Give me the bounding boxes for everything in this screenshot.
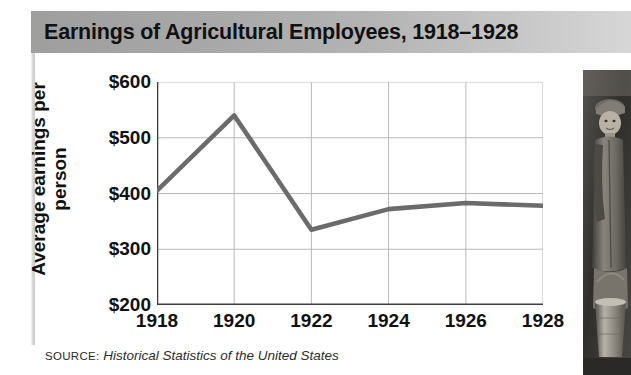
photograph-image xyxy=(583,70,631,375)
source-title: Historical Statistics of the United Stat… xyxy=(103,348,339,363)
page-title: Earnings of Agricultural Employees, 1918… xyxy=(44,20,518,45)
x-axis-tick-label: 1922 xyxy=(290,310,332,332)
x-axis-tick-label: 1918 xyxy=(136,310,178,332)
photograph xyxy=(583,70,631,375)
plot-area xyxy=(157,82,543,305)
line-chart-svg xyxy=(157,82,543,305)
source-label: SOURCE: xyxy=(45,350,100,362)
y-axis-tick-label: $500 xyxy=(85,127,151,149)
data-series-line xyxy=(157,115,543,229)
figure-container: Earnings of Agricultural Employees, 1918… xyxy=(0,0,631,375)
y-axis-tick-label: $600 xyxy=(85,71,151,93)
figure-title-bar: Earnings of Agricultural Employees, 1918… xyxy=(31,11,631,53)
y-axis-tick-labels: $200$300$400$500$600 xyxy=(85,56,151,336)
gridlines xyxy=(157,82,543,305)
x-axis-tick-labels: 191819201922192419261928 xyxy=(157,310,543,340)
x-axis-tick-label: 1926 xyxy=(445,310,487,332)
source-citation: SOURCE: Historical Statistics of the Uni… xyxy=(45,348,339,363)
x-axis-tick-label: 1928 xyxy=(522,310,564,332)
x-axis-tick-label: 1924 xyxy=(367,310,409,332)
y-axis-label: Average earnings per person xyxy=(19,74,79,284)
y-axis-tick-label: $400 xyxy=(85,183,151,205)
chart: Average earnings per person $200$300$400… xyxy=(35,56,555,336)
x-axis-tick-label: 1920 xyxy=(213,310,255,332)
y-axis-tick-label: $300 xyxy=(85,238,151,260)
